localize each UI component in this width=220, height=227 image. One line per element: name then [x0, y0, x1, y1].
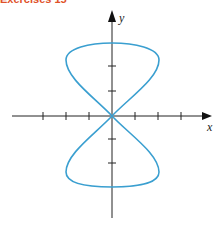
- x-axis-arrow-icon: [202, 112, 212, 120]
- y-axis-label: y: [118, 11, 125, 25]
- figure-eight-plot: x y: [0, 0, 220, 227]
- x-axis-label: x: [206, 120, 213, 134]
- y-axis-arrow-icon: [108, 10, 116, 22]
